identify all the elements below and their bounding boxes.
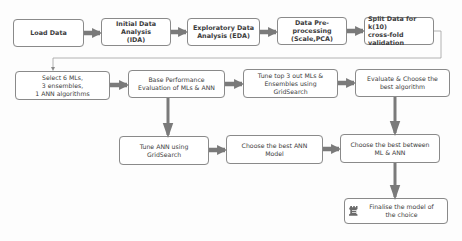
node-label: Select 6 MLs, 3 ensembles, 1 ANN algorit… <box>35 74 89 98</box>
node-label: Exploratory Data Analysis (EDA) <box>193 24 254 40</box>
node-evaluate: Evaluate & Choose the best algorithm <box>355 69 450 97</box>
node-label: Tune top 3 out MLs & Ensembles using Gri… <box>247 72 334 96</box>
node-ida: Initial Data Analysis (IDA) <box>101 18 171 46</box>
node-finalise: Finalise the model of the choice <box>344 198 448 224</box>
node-label: Load Data <box>30 29 67 37</box>
node-load-data: Load Data <box>13 19 84 47</box>
node-label: Choose the best ANN Model <box>242 142 308 158</box>
node-label: Evaluate & Choose the best algorithm <box>367 75 438 91</box>
chess-rook-icon <box>349 205 359 217</box>
node-label: Initial Data Analysis (IDA) <box>105 20 167 44</box>
node-eda: Exploratory Data Analysis (EDA) <box>187 18 260 46</box>
node-label: Split Data for k(10) cross-fold validati… <box>368 15 430 47</box>
node-base-performance: Base Performance Evaluation of MLs & ANN <box>128 70 225 98</box>
node-label: Data Pre-processing (Scale,PCA) <box>281 19 343 43</box>
node-preprocessing: Data Pre-processing (Scale,PCA) <box>277 17 347 45</box>
node-split: Split Data for k(10) cross-fold validati… <box>364 17 434 45</box>
node-choose-between: Choose the best between ML & ANN <box>340 134 440 163</box>
node-label: Tune ANN using GridSearch <box>140 143 189 159</box>
node-label: Finalise the model of the choice <box>369 203 433 219</box>
node-choose-ann: Choose the best ANN Model <box>226 135 323 164</box>
node-label: Choose the best between ML & ANN <box>350 141 429 157</box>
node-tune-ann: Tune ANN using GridSearch <box>119 136 209 165</box>
node-tune-top3: Tune top 3 out MLs & Ensembles using Gri… <box>243 69 338 98</box>
flowchart-canvas: Load Data Initial Data Analysis (IDA) Ex… <box>0 0 462 241</box>
node-select: Select 6 MLs, 3 ensembles, 1 ANN algorit… <box>15 71 110 100</box>
node-label: Base Performance Evaluation of MLs & ANN <box>138 76 215 92</box>
